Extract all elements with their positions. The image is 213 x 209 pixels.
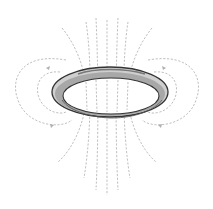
- magnetic-field-diagram: [0, 0, 213, 209]
- current-ring: [52, 67, 168, 118]
- diagram-canvas: Magnetic field lines around a current lo…: [0, 0, 213, 209]
